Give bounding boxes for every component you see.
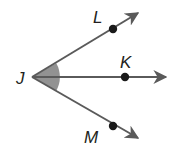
- label-l: L: [93, 8, 102, 27]
- label-k: K: [120, 53, 132, 72]
- point-m: [109, 122, 117, 130]
- point-k: [121, 73, 129, 81]
- angle-diagram: J L K M: [0, 0, 176, 158]
- label-j: J: [15, 69, 25, 88]
- label-m: M: [84, 128, 99, 147]
- point-l: [109, 25, 117, 33]
